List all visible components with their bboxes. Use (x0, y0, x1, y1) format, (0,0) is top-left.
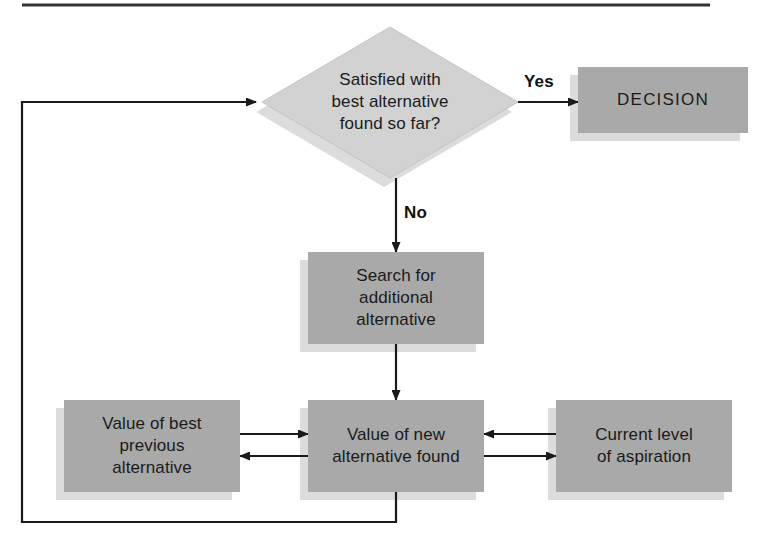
current-aspiration-shape[interactable] (556, 400, 732, 492)
yes-edge-label: Yes (524, 72, 554, 92)
value-new-alternative-shape[interactable] (308, 400, 484, 492)
search-additional-shape[interactable] (308, 252, 484, 344)
decision-outcome-shape[interactable] (578, 67, 748, 133)
flowchart-graphics (0, 0, 772, 552)
no-edge-label: No (404, 203, 427, 223)
decision-diamond-shape[interactable] (262, 27, 518, 178)
flowchart-canvas: Satisfied with best alternative found so… (0, 0, 772, 552)
value-best-previous-shape[interactable] (64, 400, 240, 492)
